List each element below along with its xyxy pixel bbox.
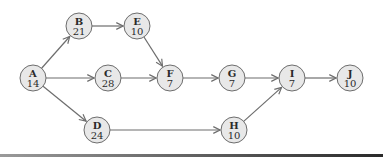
node-duration: 28 <box>102 78 115 89</box>
node-label: I <box>290 68 295 79</box>
node-label: B <box>75 16 83 27</box>
edge-e-to-f <box>144 37 163 66</box>
node-duration: 10 <box>344 78 357 89</box>
node-duration: 10 <box>228 130 241 141</box>
node-j: J10 <box>337 65 363 91</box>
node-label: D <box>93 120 102 131</box>
bottom-divider <box>0 154 383 157</box>
node-label: E <box>133 16 141 27</box>
node-label: G <box>228 68 237 79</box>
edge-h-to-i <box>244 87 282 121</box>
node-duration: 7 <box>289 78 295 89</box>
node-h: H10 <box>221 117 247 143</box>
node-label: H <box>229 120 238 131</box>
node-c: C28 <box>95 65 121 91</box>
node-duration: 14 <box>27 78 40 89</box>
node-label: J <box>347 68 353 79</box>
node-f: F7 <box>157 65 183 91</box>
node-a: A14 <box>20 65 46 91</box>
node-label: F <box>166 68 173 79</box>
node-duration: 7 <box>229 78 235 89</box>
node-d: D24 <box>84 117 110 143</box>
node-duration: 21 <box>73 26 86 37</box>
node-duration: 10 <box>131 26 144 37</box>
edge-a-to-d <box>43 86 86 121</box>
node-e: E10 <box>124 13 150 39</box>
node-label: C <box>104 68 112 79</box>
node-g: G7 <box>219 65 245 91</box>
node-duration: 7 <box>167 78 173 89</box>
node-b: B21 <box>66 13 92 39</box>
node-label: A <box>28 68 37 79</box>
node-i: I7 <box>279 65 305 91</box>
activity-network-diagram: A14B21C28D24E10F7G7H10I7J10 <box>0 0 383 157</box>
node-duration: 24 <box>91 130 104 141</box>
edge-a-to-b <box>42 36 70 68</box>
